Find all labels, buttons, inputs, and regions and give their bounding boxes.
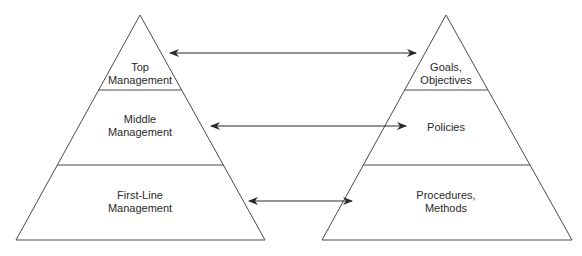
- label-first-line-management: First-Line Management: [108, 189, 172, 215]
- label-procedures-methods: Procedures, Methods: [416, 189, 475, 215]
- label-policies: Policies: [427, 121, 465, 134]
- label-top-management: Top Management: [108, 61, 172, 87]
- pyramid-diagram: [0, 0, 582, 256]
- label-goals-objectives: Goals, Objectives: [420, 61, 471, 87]
- arrows: [170, 53, 416, 201]
- label-middle-management: Middle Management: [108, 113, 172, 139]
